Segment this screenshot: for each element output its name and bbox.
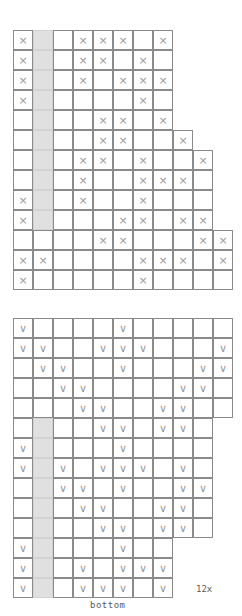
- chart-cell: [133, 130, 153, 150]
- chart-cell: [13, 230, 33, 250]
- chart-cell: ×: [213, 230, 233, 250]
- chevron-stitch-symbol: ∨: [179, 482, 187, 493]
- chart-cell-highlighted: [33, 458, 53, 478]
- chevron-stitch-symbol: ∨: [19, 582, 27, 593]
- chart-cell: ∨: [93, 578, 113, 598]
- chevron-stitch-symbol: ∨: [19, 342, 27, 353]
- chart-cell: [133, 30, 153, 50]
- chevron-stitch-symbol: ∨: [39, 342, 47, 353]
- chart-cell: ∨: [13, 558, 33, 578]
- chart-cell: [113, 250, 133, 270]
- chart-cell: [13, 418, 33, 438]
- chart-cell: [13, 110, 33, 130]
- chart-cell: ∨: [173, 498, 193, 518]
- chart-cell: ∨: [13, 318, 33, 338]
- chart-cell: ×: [113, 210, 133, 230]
- chevron-stitch-symbol: ∨: [119, 422, 127, 433]
- cross-stitch-symbol: ×: [98, 134, 107, 145]
- chart-cell: ∨: [173, 478, 193, 498]
- cross-stitch-symbol: ×: [138, 94, 147, 105]
- chart-cell: [33, 230, 53, 250]
- chart-cell: [53, 90, 73, 110]
- chart-cell: ×: [153, 250, 173, 270]
- chart-cell: ×: [153, 30, 173, 50]
- chart-cell: [73, 230, 93, 250]
- chart-cell: ×: [13, 50, 33, 70]
- cross-stitch-symbol: ×: [98, 34, 107, 45]
- cross-stitch-symbol: ×: [18, 34, 27, 45]
- chart-cell: [93, 478, 113, 498]
- chart-cell: ∨: [73, 498, 93, 518]
- chart-cell: [153, 338, 173, 358]
- chart-cell: [153, 150, 173, 170]
- chart-cell: ∨: [93, 398, 113, 418]
- chart-cell: [93, 358, 113, 378]
- chart-cell: [133, 358, 153, 378]
- chart-cell: ×: [73, 30, 93, 50]
- chevron-stitch-symbol: ∨: [219, 362, 227, 373]
- cross-stitch-symbol: ×: [198, 214, 207, 225]
- chart-cell: ∨: [153, 418, 173, 438]
- chevron-stitch-symbol: ∨: [179, 502, 187, 513]
- cross-stitch-symbol: ×: [38, 254, 47, 265]
- cross-stitch-symbol: ×: [178, 174, 187, 185]
- chart-cell: ×: [173, 250, 193, 270]
- chart-cell-highlighted: [33, 90, 53, 110]
- chart-cell: [13, 130, 33, 150]
- bottom-edge-label: bottom: [90, 600, 126, 610]
- chart-cell: [13, 518, 33, 538]
- chart-cell: [53, 70, 73, 90]
- chart-cell: [73, 110, 93, 130]
- chart-cell: [153, 210, 173, 230]
- chart-cell: [113, 90, 133, 110]
- chart-cell: ×: [173, 210, 193, 230]
- chart-cell: [173, 270, 193, 290]
- chart-cell: [153, 230, 173, 250]
- chart-cell: ∨: [113, 418, 133, 438]
- chart-cell: ∨: [53, 378, 73, 398]
- chart-cell: [153, 458, 173, 478]
- cross-stitch-symbol: ×: [158, 74, 167, 85]
- chart-cell: [93, 270, 113, 290]
- chart-cell: ×: [193, 150, 213, 170]
- chevron-stitch-symbol: ∨: [39, 362, 47, 373]
- cross-stitch-symbol: ×: [138, 214, 147, 225]
- chevron-stitch-symbol: ∨: [99, 522, 107, 533]
- chart-cell: ×: [93, 50, 113, 70]
- chevron-stitch-symbol: ∨: [99, 502, 107, 513]
- chevron-stitch-symbol: ∨: [119, 442, 127, 453]
- chart-cell-highlighted: [33, 578, 53, 598]
- chevron-stitch-symbol: ∨: [119, 482, 127, 493]
- chevron-stitch-symbol: ∨: [119, 362, 127, 373]
- cross-stitch-symbol: ×: [78, 34, 87, 45]
- chart-cell: [53, 110, 73, 130]
- chart-cell: [173, 190, 193, 210]
- chart-cell-highlighted: [33, 438, 53, 458]
- cross-stitch-symbol: ×: [138, 174, 147, 185]
- chart-cell: [13, 378, 33, 398]
- cross-stitch-symbol: ×: [18, 74, 27, 85]
- chart-cell: [213, 270, 233, 290]
- chart-cell: ∨: [193, 478, 213, 498]
- chart-cell: [33, 398, 53, 418]
- chart-cell: [53, 130, 73, 150]
- chart-cell: [93, 190, 113, 210]
- chart-cell: [73, 210, 93, 230]
- chevron-stitch-symbol: ∨: [79, 582, 87, 593]
- chart-cell: [93, 538, 113, 558]
- chart-cell: [193, 318, 213, 338]
- chart-cell: ×: [213, 250, 233, 270]
- cross-stitch-symbol: ×: [78, 54, 87, 65]
- cross-stitch-symbol: ×: [198, 234, 207, 245]
- chevron-stitch-symbol: ∨: [19, 462, 27, 473]
- chart-cell: [53, 230, 73, 250]
- chart-cell: ×: [33, 250, 53, 270]
- chart-cell: [53, 250, 73, 270]
- chart-cell: [73, 438, 93, 458]
- cross-stitch-symbol: ×: [18, 274, 27, 285]
- chart-cell: [73, 250, 93, 270]
- chevron-stitch-symbol: ∨: [79, 562, 87, 573]
- chart-cell: [13, 358, 33, 378]
- chart-cell: ×: [113, 130, 133, 150]
- chart-cell-highlighted: [33, 478, 53, 498]
